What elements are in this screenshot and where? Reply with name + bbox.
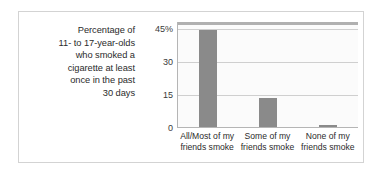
bar-slot [178,22,238,127]
y-axis-tick-label: 15 [163,90,173,100]
caption-line: 11- to 17-year-olds [23,37,135,50]
x-axis-category-label: All/Most of my friends smoke [177,131,237,153]
caption-line: once in the past [23,74,135,87]
plot-area [177,22,358,128]
caption-line: Percentage of [23,24,135,37]
y-axis-tick-label: 30 [163,57,173,67]
x-axis-category-label: None of my friends smoke [298,131,358,153]
category-label-line: friends smoke [299,142,357,153]
caption-line: cigarette at least [23,62,135,75]
x-axis-category-labels: All/Most of my friends smoke Some of my … [177,131,358,153]
bar-series [178,22,358,127]
y-axis-tick-label: 0 [168,123,173,133]
chart-figure: Percentage of 11- to 17-year-olds who sm… [18,11,364,163]
x-axis-category-label: Some of my friends smoke [237,131,297,153]
bar [259,98,277,127]
y-axis-tick-label: 45% [155,24,173,34]
category-label-line: Some of my [238,131,296,142]
y-axis-tick-labels: 45% 30 15 0 [148,22,175,128]
category-label-line: None of my [299,131,357,142]
category-label-line: friends smoke [178,142,236,153]
bar-slot [238,22,298,127]
chart-caption: Percentage of 11- to 17-year-olds who sm… [23,24,135,100]
bar [199,30,217,127]
category-label-line: All/Most of my [178,131,236,142]
caption-line: 30 days [23,87,135,100]
plot-wrapper: 45% 30 15 0 All [148,22,358,157]
bar [319,125,337,127]
category-label-line: friends smoke [238,142,296,153]
bar-slot [298,22,358,127]
caption-line: who smoked a [23,49,135,62]
